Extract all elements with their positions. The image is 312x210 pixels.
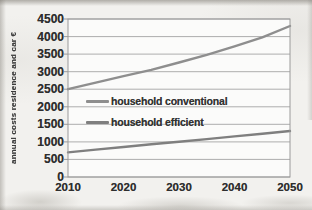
legend-line-household-efficient [86,121,109,124]
x-tick-label: 2020 [111,181,137,193]
legend-label-household-efficient: household efficient [111,116,203,128]
legend-item-household-efficient: household efficient [86,116,203,128]
y-tick-label: 3000 [37,66,64,78]
y-tick-label: 3500 [37,48,64,60]
legend-label-household-conventional: household conventional [111,95,227,107]
y-tick-label: 500 [44,153,64,165]
x-tick-label: 2050 [277,181,303,193]
x-tick-label: 2040 [222,181,248,193]
y-tick-label: 4500 [37,13,64,25]
legend-item-household-conventional: household conventional [86,95,227,107]
y-tick-label: 2000 [37,101,64,113]
x-tick-label: 2010 [55,181,81,193]
legend-line-household-conventional [86,100,109,103]
y-tick-label: 4000 [37,31,64,43]
y-tick-label: 1500 [37,118,64,130]
scanned-line-chart-figure: annual costs residence and car € 0500100… [0,0,312,210]
y-tick-label: 1000 [37,136,64,148]
y-tick-label: 2500 [37,83,64,95]
x-tick-label: 2030 [166,181,192,193]
